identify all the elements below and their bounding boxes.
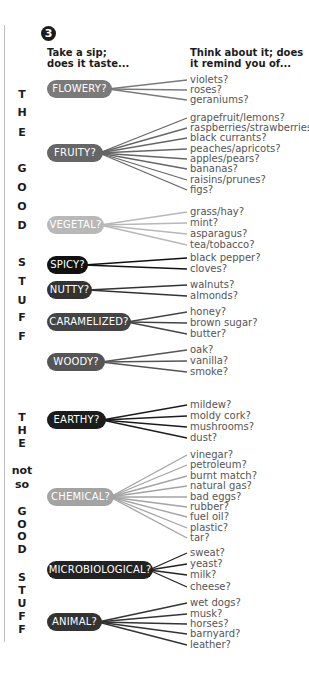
flavor-note: petroleum?: [190, 459, 247, 470]
flavor-note: sweat?: [190, 547, 225, 558]
flavor-note: mildew?: [190, 399, 231, 410]
flavor-note: almonds?: [190, 290, 238, 301]
side-label-good: E: [10, 127, 34, 139]
flavor-note: smoke?: [190, 366, 228, 377]
flavor-note: butter?: [190, 328, 226, 339]
side-label-not-so-good: E: [10, 438, 34, 450]
side-label-not-so-good: F: [10, 624, 34, 636]
side-label-good: F: [10, 312, 34, 324]
side-label-not-so-good: S: [10, 572, 34, 584]
flavor-note: brown sugar?: [190, 317, 258, 328]
side-label-not-so-good: F: [10, 611, 34, 623]
flavor-note: tea/tobacco?: [190, 239, 255, 250]
flavor-note: cloves?: [190, 263, 227, 274]
flavor-note: tar?: [190, 532, 209, 543]
side-label-good: S: [10, 257, 34, 269]
category-pill-flowery: FLOWERY?: [47, 80, 112, 98]
side-label-not-so-good: G: [10, 506, 34, 518]
flavor-note: yeast?: [190, 558, 223, 569]
flavor-note: leather?: [190, 639, 231, 650]
flavor-note: milk?: [190, 569, 216, 580]
category-pill-caramelized: CARAMELIZED?: [47, 313, 131, 331]
side-label-good: T: [10, 276, 34, 288]
side-label-not-so-good: T: [10, 412, 34, 424]
category-pill-chemical: CHEMICAL?: [47, 488, 114, 506]
category-pill-woody: WOODY?: [47, 353, 105, 371]
flavor-note: figs?: [190, 184, 213, 195]
flavor-note: dust?: [190, 432, 217, 443]
flavor-note: asparagus?: [190, 228, 247, 239]
connector-lines: [0, 0, 309, 675]
category-pill-animal: ANIMAL?: [47, 613, 102, 631]
side-label-good: G: [10, 163, 34, 175]
side-label-not-so-good: D: [10, 544, 34, 556]
side-label-good: F: [10, 331, 34, 343]
side-label-good: O: [10, 182, 34, 194]
flavor-note: mushrooms?: [190, 421, 254, 432]
side-label-good: D: [10, 220, 34, 232]
flavor-note: oak?: [190, 344, 213, 355]
side-label-good: T: [10, 89, 34, 101]
flavor-note: natural gas?: [190, 480, 252, 491]
side-label-good: U: [10, 295, 34, 307]
flavor-note: grass/hay?: [190, 206, 244, 217]
flavor-note: wet dogs?: [190, 597, 241, 608]
flavor-note: black pepper?: [190, 252, 261, 263]
flavor-note: black currants?: [190, 132, 267, 143]
flavor-note: geraniums?: [190, 94, 248, 105]
flavor-note: cheese?: [190, 581, 231, 592]
side-label-good: O: [10, 201, 34, 213]
flavor-note: barnyard?: [190, 628, 240, 639]
category-pill-nutty: NUTTY?: [47, 281, 92, 299]
flavor-note: honey?: [190, 306, 226, 317]
category-pill-vegetal: VEGETAL?: [47, 216, 104, 234]
flavor-note: walnuts?: [190, 279, 234, 290]
flavor-note: moldy cork?: [190, 410, 251, 421]
flavor-note: mint?: [190, 217, 218, 228]
side-label-not-so-good: H: [10, 425, 34, 437]
flavor-note: fuel oil?: [190, 511, 229, 522]
category-pill-fruity: FRUITY?: [47, 144, 103, 162]
side-label-not-so-good: O: [10, 531, 34, 543]
side-label-not-so-good: not: [10, 465, 34, 477]
category-pill-spicy: SPICY?: [47, 256, 88, 274]
flavor-note: bananas?: [190, 163, 238, 174]
category-pill-microbiological: MICROBIOLOGICAL?: [47, 561, 153, 579]
side-label-good: H: [10, 107, 34, 119]
side-label-not-so-good: U: [10, 598, 34, 610]
category-pill-earthy: EARTHY?: [47, 411, 106, 429]
flavor-note: vanilla?: [190, 355, 228, 366]
side-label-not-so-good: T: [10, 585, 34, 597]
side-label-not-so-good: so: [10, 479, 34, 491]
